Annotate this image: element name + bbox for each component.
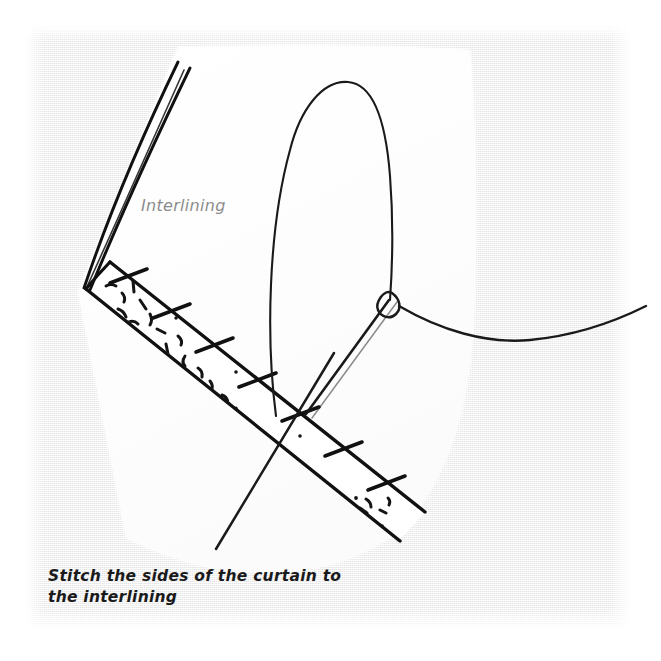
illustration-page: Interlining Stitch the sides of the curt… <box>0 0 661 661</box>
label-interlining: Interlining <box>141 196 226 215</box>
figure-caption: Stitch the sides of the curtain to the i… <box>48 566 378 608</box>
sewing-illustration-artwork <box>0 0 661 661</box>
